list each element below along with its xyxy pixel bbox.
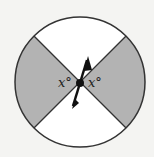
- spinner-diagram: x° x°: [0, 0, 154, 157]
- left-angle-label: x°: [58, 75, 72, 90]
- right-angle-label: x°: [88, 75, 102, 90]
